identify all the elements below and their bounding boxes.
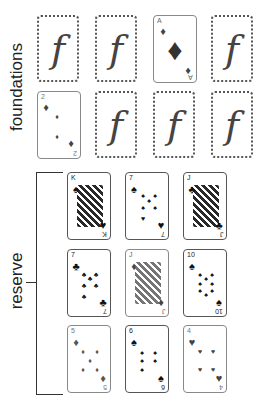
heart-icon: ♥ xyxy=(216,373,223,384)
bracket-tick xyxy=(26,282,36,283)
heart-icon: ♥ xyxy=(198,366,202,373)
empty-slot-icon: f xyxy=(167,106,181,144)
foundation-slot-1[interactable]: f xyxy=(37,15,79,82)
card-rank: 2 xyxy=(73,149,77,157)
club-icon: ♣ xyxy=(72,261,79,272)
card-rank: 7 xyxy=(71,251,75,259)
heart-icon: ♥ xyxy=(198,348,202,355)
reserve-bracket xyxy=(36,172,63,395)
foundation-slot-8[interactable]: f xyxy=(211,91,253,158)
diamond-icon: ♦ xyxy=(95,366,99,373)
club-icon: ♣ xyxy=(94,282,99,289)
diamond-icon: ♦ xyxy=(95,348,99,355)
reserve-card-four-hearts[interactable]: 4 ♥ ♥ ♥ ♥ ♥ ♥ 4 xyxy=(183,325,227,393)
club-icon: ♣ xyxy=(94,271,99,278)
diamond-icon: ♦ xyxy=(55,113,59,120)
heart-icon: ♥ xyxy=(189,337,196,348)
spade-icon: ♠ xyxy=(153,357,157,364)
club-icon: ♣ xyxy=(88,275,93,282)
foundation-slot-7[interactable]: f xyxy=(153,91,195,158)
card-rank: K xyxy=(71,174,76,182)
spade-icon: ♠ xyxy=(198,271,202,278)
heart-icon: ♥ xyxy=(211,348,215,355)
spade-icon: ♠ xyxy=(198,280,202,287)
spade-icon: ♠ xyxy=(131,184,137,195)
spade-icon: ♠ xyxy=(141,192,145,199)
spade-icon: ♠ xyxy=(141,204,145,211)
spade-icon: ♠ xyxy=(158,373,164,384)
card-rank: A xyxy=(188,73,193,81)
spade-icon: ♠ xyxy=(140,357,144,364)
reserve-card-seven-clubs[interactable]: 7 ♣ ♣ ♣ ♣ ♣ ♣ ♣ ♣ 7 xyxy=(67,249,111,317)
reserve-card-jack-clubs[interactable]: J ♣ ♣ J xyxy=(183,172,227,240)
empty-slot-icon: f xyxy=(109,30,123,68)
card-rank: J xyxy=(187,174,191,182)
club-icon: ♣ xyxy=(215,220,222,231)
club-icon: ♣ xyxy=(82,293,87,300)
spade-icon: ♠ xyxy=(210,271,214,278)
spade-icon: ♠ xyxy=(204,275,208,282)
club-icon: ♣ xyxy=(99,297,106,308)
reserve-card-six-spades[interactable]: 6 ♠ ♠ ♠ ♠ ♠ ♠ ♠ 6 xyxy=(125,325,169,393)
foundation-card-two-diamonds[interactable]: 2 ♦ ♦ ♦ ♦ 2 xyxy=(37,91,81,159)
spade-icon: ♠ xyxy=(153,349,157,356)
foundations-label: foundations xyxy=(7,42,27,132)
spade-icon: ♠ xyxy=(204,291,208,298)
spade-icon: ♥ xyxy=(141,215,145,222)
card-rank: 4 xyxy=(187,327,191,335)
reserve-card-jack-diamonds[interactable]: J ♦ ♦ J xyxy=(125,249,169,317)
card-rank: 6 xyxy=(161,383,165,391)
reserve-label: reserve xyxy=(7,246,27,316)
empty-slot-icon: f xyxy=(225,106,239,144)
club-icon: ♣ xyxy=(82,282,87,289)
diamond-icon: ♦ xyxy=(167,35,182,65)
jack-face-art xyxy=(135,262,161,304)
spade-icon: ♠ xyxy=(153,192,157,199)
card-rank: J xyxy=(220,230,224,238)
diamond-icon: ♦ xyxy=(88,357,92,364)
diamond-icon: ♦ xyxy=(81,366,85,373)
diamond-icon: ♦ xyxy=(55,133,59,140)
diamond-icon: ♦ xyxy=(160,26,166,37)
card-rank: 7 xyxy=(129,174,133,182)
card-rank: 5 xyxy=(103,383,107,391)
spade-icon: ♠ xyxy=(147,197,151,204)
heart-icon: ♥ xyxy=(100,220,107,231)
card-rank: J xyxy=(162,307,166,315)
reserve-card-seven-spades[interactable]: 7 ♠ ♠ ♠ ♠ ♠ ♠ ♥ ♥ 7 xyxy=(125,172,169,240)
foundation-slot-2[interactable]: f xyxy=(95,15,137,82)
diamond-icon: ♦ xyxy=(100,373,106,384)
spade-icon: ♠ xyxy=(140,366,144,373)
spade-icon: ♠ xyxy=(210,280,214,287)
card-rank: 10 xyxy=(215,307,223,315)
card-rank: 7 xyxy=(161,230,165,238)
diamond-icon: ♦ xyxy=(68,138,74,149)
empty-slot-icon: f xyxy=(109,106,123,144)
foundation-slot-6[interactable]: f xyxy=(95,91,137,158)
card-rank: 10 xyxy=(187,251,195,259)
card-rank: 5 xyxy=(71,327,75,335)
spade-icon: ♠ xyxy=(216,297,222,308)
spade-icon: ♠ xyxy=(210,287,214,294)
empty-slot-icon: f xyxy=(51,30,65,68)
card-rank: 6 xyxy=(129,327,133,335)
card-rank: K xyxy=(102,230,107,238)
empty-slot-icon: f xyxy=(225,30,239,68)
heart-icon: ♥ xyxy=(158,220,165,231)
reserve-card-five-diamonds[interactable]: 5 ♦ ♦ ♦ ♦ ♦ ♦ ♦ 5 xyxy=(67,325,111,393)
spade-icon: ♠ xyxy=(198,287,202,294)
foundation-slot-4[interactable]: f xyxy=(211,15,253,82)
card-rank: 7 xyxy=(103,307,107,315)
diamond-icon: ♦ xyxy=(73,337,79,348)
diamond-icon: ♦ xyxy=(158,297,164,308)
foundation-card-ace-diamonds[interactable]: A ♦ ♦ ♦ A xyxy=(153,15,197,83)
spade-icon: ♠ xyxy=(189,261,195,272)
club-icon: ♣ xyxy=(82,271,87,278)
card-rank: J xyxy=(129,251,133,259)
reserve-card-king-spades[interactable]: K ♠ ♥ K xyxy=(67,172,111,240)
spade-icon: ♠ xyxy=(153,204,157,211)
reserve-card-ten-spades[interactable]: 10 ♠ ♠ ♠ ♠ ♠ ♠ ♠ ♠ ♠ ♠ 10 xyxy=(183,249,227,317)
spade-icon: ♠ xyxy=(131,337,137,348)
heart-icon: ♥ xyxy=(211,366,215,373)
spade-icon: ♠ xyxy=(140,349,144,356)
